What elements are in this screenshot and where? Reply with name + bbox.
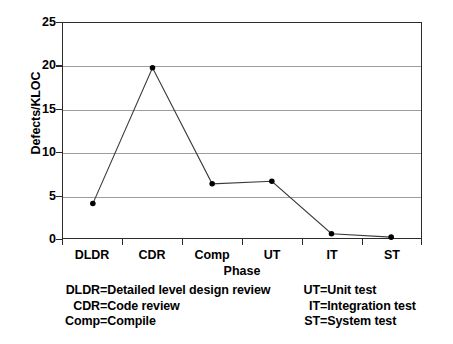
- x-tick-mark-2: [182, 239, 183, 245]
- legend-abbr-ut: UT: [278, 283, 320, 299]
- x-tick-mark-5: [362, 239, 363, 245]
- x-tick-label-comp: Comp: [182, 248, 242, 262]
- data-point-it: [329, 231, 335, 237]
- legend-abbr-dldr: DLDR: [58, 283, 100, 299]
- legend-abbr-it: IT: [278, 299, 320, 315]
- y-tick-label-20: 20: [26, 59, 56, 72]
- x-tick-label-it: IT: [302, 248, 362, 262]
- y-tick-label-25: 25: [26, 16, 56, 29]
- x-tick-mark-1: [122, 239, 123, 245]
- y-tick-label-10: 10: [26, 146, 56, 159]
- x-tick-label-st: ST: [362, 248, 422, 262]
- defects-per-kloc-chart: Defects/KLOC 25 20 15 10 5 0 DLDR CDR Co…: [0, 0, 453, 344]
- data-point-ut: [269, 178, 275, 184]
- x-tick-mark-4: [302, 239, 303, 245]
- x-tick-label-dldr: DLDR: [62, 248, 122, 262]
- series-polyline: [93, 68, 391, 237]
- legend-desc-comp: Compile: [107, 314, 156, 330]
- series-markers: [90, 65, 394, 240]
- x-tick-mark-3: [242, 239, 243, 245]
- abbreviation-legend-left: DLDR=Detailed level design review CDR=Co…: [58, 283, 258, 330]
- legend-item-dldr: DLDR=Detailed level design review: [58, 283, 258, 299]
- legend-item-cdr: CDR=Code review: [58, 299, 258, 315]
- legend-item-ut: UT=Unit test: [278, 283, 448, 299]
- legend-item-it: IT=Integration test: [278, 299, 448, 315]
- y-tick-label-0: 0: [26, 233, 56, 246]
- x-tick-mark-0: [62, 239, 63, 245]
- x-axis-title: Phase: [62, 264, 422, 278]
- x-tick-label-cdr: CDR: [122, 248, 182, 262]
- legend-eq-st: =: [320, 314, 327, 330]
- legend-item-st: ST=System test: [278, 314, 448, 330]
- y-tick-label-5: 5: [26, 190, 56, 203]
- data-point-dldr: [90, 201, 96, 207]
- data-point-comp: [209, 181, 215, 187]
- x-tick-label-ut: UT: [242, 248, 302, 262]
- legend-abbr-st: ST: [278, 314, 320, 330]
- data-point-st: [388, 234, 394, 240]
- legend-eq-comp: =: [100, 314, 107, 330]
- abbreviation-legend-right: UT=Unit test IT=Integration test ST=Syst…: [278, 283, 448, 330]
- legend-item-comp: Comp=Compile: [58, 314, 258, 330]
- legend-desc-dldr: Detailed level design review: [107, 283, 270, 299]
- x-tick-mark-6: [421, 239, 422, 245]
- legend-desc-ut: Unit test: [327, 283, 376, 299]
- legend-eq-cdr: =: [100, 299, 107, 315]
- legend-desc-it: Integration test: [327, 299, 416, 315]
- legend-abbr-cdr: CDR: [58, 299, 100, 315]
- data-series-line: [63, 23, 421, 238]
- legend-eq-it: =: [320, 299, 327, 315]
- plot-area: [62, 22, 422, 239]
- legend-desc-st: System test: [327, 314, 396, 330]
- y-tick-label-15: 15: [26, 103, 56, 116]
- data-point-cdr: [150, 65, 156, 71]
- legend-eq-dldr: =: [100, 283, 107, 299]
- legend-eq-ut: =: [320, 283, 327, 299]
- legend-desc-cdr: Code review: [107, 299, 180, 315]
- legend-abbr-comp: Comp: [58, 314, 100, 330]
